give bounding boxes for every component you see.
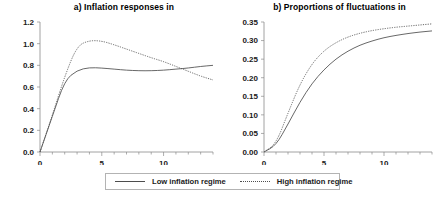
y-tick-label: 0.30 bbox=[242, 36, 258, 45]
x-tick-label: 0 bbox=[262, 159, 267, 165]
y-tick-label: 1.0 bbox=[23, 40, 35, 49]
y-tick-label: 0.25 bbox=[242, 55, 258, 64]
y-tick-label: 0.0 bbox=[23, 148, 35, 157]
legend-label-low-inflation: Low inflation regime bbox=[152, 177, 226, 186]
x-tick-label: 10 bbox=[159, 159, 168, 165]
legend-label-high-inflation: High inflation regime bbox=[277, 177, 353, 186]
y-tick-label: 0.10 bbox=[242, 111, 258, 120]
y-tick-label: 0.35 bbox=[242, 18, 258, 27]
y-tick-label: 0.8 bbox=[23, 61, 35, 70]
y-tick-label: 0.6 bbox=[23, 83, 35, 92]
y-tick-label: 0.00 bbox=[242, 148, 258, 157]
chart-legend: Low inflation regime High inflation regi… bbox=[105, 173, 340, 190]
x-tick-label: 5 bbox=[100, 159, 105, 165]
series-line-high-inflation bbox=[264, 24, 432, 152]
chart-panel-b: b) Proportions of fluctuations in 0.000.… bbox=[222, 0, 441, 165]
series-line-low-inflation bbox=[264, 31, 432, 152]
x-tick-label: 10 bbox=[380, 159, 389, 165]
figure-container: a) Inflation responses in 0.00.20.40.60.… bbox=[0, 0, 441, 197]
x-tick-label: 5 bbox=[322, 159, 327, 165]
panel-a-plot: 0.00.20.40.60.81.01.20510 bbox=[0, 0, 222, 165]
legend-entry-high-inflation: High inflation regime bbox=[226, 174, 353, 189]
panel-b-plot: 0.000.050.100.150.200.250.300.350510 bbox=[222, 0, 441, 165]
y-tick-label: 1.2 bbox=[23, 18, 35, 27]
y-tick-label: 0.15 bbox=[242, 92, 258, 101]
y-tick-label: 0.20 bbox=[242, 74, 258, 83]
y-tick-label: 0.2 bbox=[23, 126, 35, 135]
y-tick-label: 0.05 bbox=[242, 129, 258, 138]
solid-line-swatch bbox=[115, 181, 145, 182]
legend-entry-low-inflation: Low inflation regime bbox=[106, 174, 226, 189]
y-tick-label: 0.4 bbox=[23, 105, 35, 114]
x-tick-label: 0 bbox=[38, 159, 43, 165]
dotted-line-swatch bbox=[240, 181, 270, 182]
chart-panel-a: a) Inflation responses in 0.00.20.40.60.… bbox=[0, 0, 222, 165]
series-line-low-inflation bbox=[40, 65, 213, 152]
series-line-high-inflation bbox=[40, 41, 213, 152]
